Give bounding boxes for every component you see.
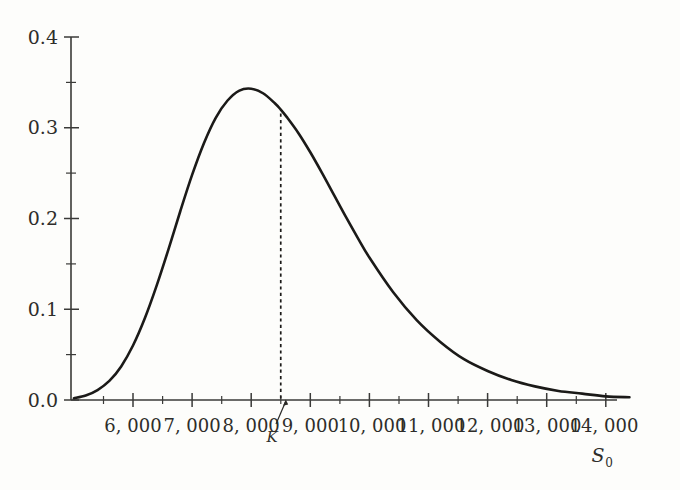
x-axis-name: S 0 [591, 444, 612, 470]
density-curve-main [74, 89, 630, 399]
strike-label: K [265, 428, 278, 446]
x-axis-name-symbol: S [591, 444, 604, 466]
y-tick-label: 0.1 [28, 298, 58, 320]
chart-container: 0.4 0.3 0.2 0.1 0.0 [0, 0, 680, 490]
y-tick-label: 0.2 [28, 207, 58, 229]
density-plot: 0.4 0.3 0.2 0.1 0.0 [0, 0, 680, 490]
x-axis-tick-labels: 6, 000 7, 000 8, 000 9, 000 10, 000 11, … [104, 415, 638, 436]
x-tick-label: 7, 000 [163, 415, 220, 436]
y-axis-tick-labels: 0.4 0.3 0.2 0.1 0.0 [28, 26, 58, 411]
y-tick-label: 0.4 [28, 26, 58, 48]
x-tick-label: 14, 000 [570, 415, 639, 436]
x-tick-label: 6, 000 [104, 415, 161, 436]
x-tick-label: 9, 000 [282, 415, 339, 436]
y-tick-label: 0.0 [28, 389, 58, 411]
y-tick-label: 0.3 [28, 116, 58, 138]
x-axis-name-subscript: 0 [605, 456, 613, 470]
